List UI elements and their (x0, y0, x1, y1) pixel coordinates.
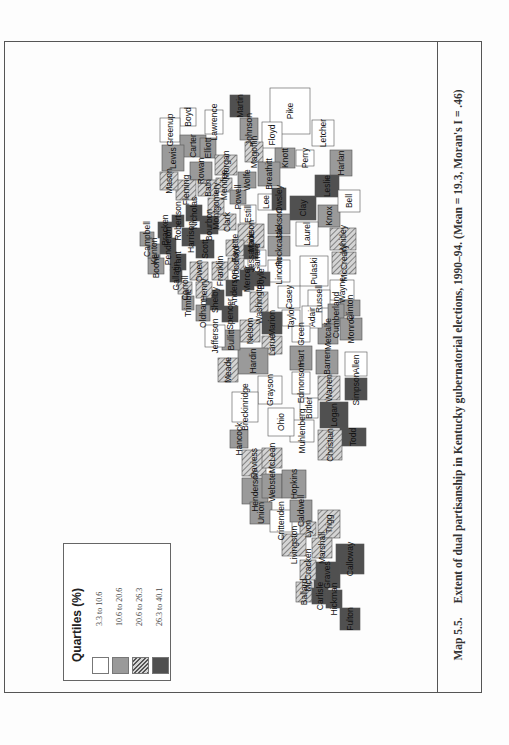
county-label: Allen (351, 354, 361, 373)
county-label: Lyon (303, 520, 313, 538)
county-label: Christian (325, 428, 335, 462)
county-label: Robertson (173, 201, 183, 240)
county-label: Carlisle (315, 582, 325, 611)
county-label: Hopkins (289, 469, 299, 500)
county-label: Adair (307, 307, 317, 327)
county-label: Lincoln (274, 257, 284, 284)
county-label: Floyd (267, 124, 277, 145)
county-label: Breathitt (264, 158, 274, 190)
legend-swatch-q3 (132, 657, 149, 674)
county-label: Knott (280, 147, 290, 167)
county-label: Campbell (142, 221, 152, 257)
county-label: Simpson (351, 372, 361, 405)
county-label: Fulton (345, 607, 355, 631)
county-label: Bullitt (226, 329, 236, 350)
county-label: Marshall (317, 532, 327, 564)
county-label: Larue (267, 334, 277, 356)
county-label: Letcher (318, 119, 328, 148)
county-label: McCreary (339, 244, 349, 282)
county-label: Crittenden (276, 501, 286, 540)
county-label: Lawrence (209, 103, 219, 140)
county-label: Webster (267, 470, 277, 502)
county-label: Mason (164, 168, 174, 194)
county-label: Wolfe (242, 169, 252, 191)
county-label: Grayson (265, 374, 275, 406)
county-label: Franklin (215, 256, 225, 287)
county-label: Todd (348, 428, 358, 447)
legend-item: 3.3 to 10.6 (92, 549, 110, 674)
county-label: Henry (199, 278, 209, 301)
county-label: Taylor (286, 307, 296, 330)
county-label: Clay (298, 199, 308, 217)
caption-text: Extent of dual partisanship in Kentucky … (452, 89, 464, 603)
county-label: Lewis (168, 147, 178, 169)
county-label: Gallatin (171, 261, 181, 290)
county-label: Powell (233, 184, 243, 209)
county-label: Carroll (180, 275, 190, 300)
county-label: Marion (267, 310, 277, 336)
county-label: Hancock (234, 422, 244, 456)
county-label: Boyd (183, 107, 193, 127)
county-label: Nelson (245, 318, 255, 345)
county-label: Leslie (322, 175, 332, 197)
legend-label: 26.3 to 40.1 (155, 588, 164, 626)
legend-title: Quartiles (%) (70, 588, 84, 662)
legend-label: 20.6 to 26.3 (135, 588, 144, 626)
county-label: Magoffin (249, 136, 259, 169)
county-label: Bourbon (204, 209, 214, 241)
county-label: Metcalfe (323, 318, 333, 350)
county-label: Greenup (165, 113, 175, 146)
county-label: Livingston (289, 526, 299, 565)
county-label: Bell (344, 194, 354, 208)
caption-number: Map 5.5. (452, 617, 464, 660)
county-label: Hardin (248, 348, 258, 373)
county-label: Shelby (210, 286, 220, 313)
county-label: Harlan (336, 150, 346, 175)
county-label: Monroe (346, 314, 356, 343)
legend-label: 10.6 to 20.6 (115, 588, 124, 626)
county-label: Meade (223, 357, 233, 383)
legend-item: 26.3 to 40.1 (152, 549, 170, 674)
county-label: Hickman (329, 582, 339, 615)
legend-item: 10.6 to 20.6 (112, 549, 130, 674)
county-label: Green (296, 322, 306, 346)
county-label: Ballard (299, 579, 309, 606)
county-label: Nicholas (189, 197, 199, 230)
legend-item: 20.6 to 26.3 (132, 549, 150, 674)
county-label: Pulaski (309, 257, 319, 285)
map-legend: Quartiles (%) 3.3 to 10.6 10.6 to 20.6 2… (63, 543, 171, 681)
county-label: Carter (188, 134, 198, 158)
county-label: Elliott (203, 137, 213, 158)
county-label: Pike (285, 102, 295, 119)
county-label: Lee (261, 195, 271, 209)
county-label: Jefferson (210, 318, 220, 353)
county-label: Casey (284, 284, 294, 309)
legend-swatch-q1 (92, 657, 109, 674)
county-label: Knox (324, 206, 334, 226)
county-label: Clark (222, 211, 232, 232)
legend-swatch-q2 (112, 657, 129, 674)
county-label: Muhlenberg (297, 408, 307, 453)
county-label: Scott (200, 239, 210, 259)
figure-caption: Map 5.5.Extent of dual partisanship in K… (452, 55, 468, 695)
county-label: Calloway (345, 541, 355, 576)
legend-swatch-q4 (152, 657, 169, 674)
county-label: Ohio (276, 413, 286, 431)
county-label: Fayette (230, 234, 240, 263)
county-label: Logan (329, 403, 339, 427)
county-label: Trigg (324, 514, 334, 533)
county-label: McLean (267, 443, 277, 474)
county-label: Perry (300, 147, 310, 168)
county-label: Union (256, 502, 266, 524)
county-label: Barren (322, 349, 332, 375)
legend-label: 3.3 to 10.6 (95, 592, 104, 626)
county-label: Warren (324, 374, 334, 402)
county-label: Jessamine (246, 231, 256, 272)
county-label: Laurel (302, 222, 312, 246)
county-label: Pendleton (163, 227, 173, 266)
county-label: Washington (254, 279, 264, 324)
county-label: Oldham (198, 298, 208, 328)
